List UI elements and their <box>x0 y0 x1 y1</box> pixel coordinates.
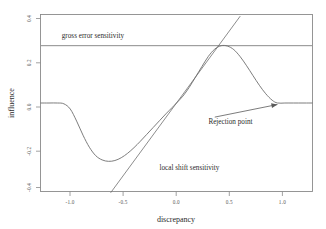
y-tick-label-0: 0.4 <box>26 15 32 22</box>
rejection-point-arrow <box>215 105 278 118</box>
y-axis-tick-labels: 0.4 0.2 0.0 -0.2 -0.4 <box>26 15 32 192</box>
gross-error-sensitivity-label: gross error sensitivity <box>62 32 125 40</box>
y-tick-label-4: -0.4 <box>26 183 32 192</box>
y-tick-label-3: -0.2 <box>26 146 32 155</box>
x-tick-label-0: -1.0 <box>65 199 74 205</box>
y-axis-title: influence <box>7 88 16 118</box>
local-shift-sensitivity-label: local shift sensitivity <box>160 164 220 172</box>
chart-svg: 0.4 0.2 0.0 -0.2 -0.4 influence -1.0 -0.… <box>0 0 326 229</box>
rejection-point-label: Rejection point <box>208 118 252 126</box>
x-axis-ticks <box>70 192 282 197</box>
x-tick-label-1: -0.5 <box>119 199 128 205</box>
y-axis-ticks <box>36 19 41 188</box>
y-tick-label-1: 0.2 <box>26 59 32 66</box>
influence-curve <box>41 45 313 161</box>
x-axis-tick-labels: -1.0 -0.5 0.0 0.5 1.0 <box>65 199 286 205</box>
x-tick-label-4: 1.0 <box>279 199 286 205</box>
y-tick-label-2: 0.0 <box>26 103 32 110</box>
rejection-point-arrowhead <box>271 103 277 108</box>
influence-function-chart: 0.4 0.2 0.0 -0.2 -0.4 influence -1.0 -0.… <box>0 0 326 229</box>
x-tick-label-3: 0.5 <box>226 199 233 205</box>
x-tick-label-2: 0.0 <box>173 199 180 205</box>
x-axis-title: discrepancy <box>157 215 195 224</box>
